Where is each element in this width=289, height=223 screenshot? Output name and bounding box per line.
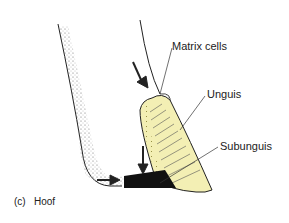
label-matrix-cells: Matrix cells	[172, 40, 227, 52]
caption: (c) Hoof	[14, 196, 55, 207]
caption-title: Hoof	[34, 196, 55, 207]
hoof-diagram	[0, 0, 289, 223]
arrow-icon	[97, 62, 148, 185]
label-unguis: Unguis	[207, 88, 241, 100]
caption-letter: (c)	[14, 196, 26, 207]
label-subunguis: Subunguis	[220, 140, 272, 152]
